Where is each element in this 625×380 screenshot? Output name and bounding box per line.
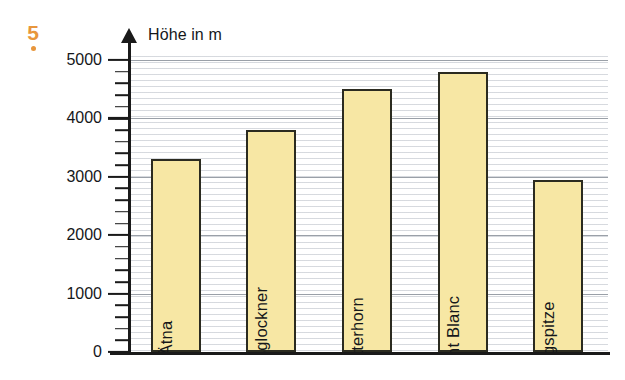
y-tick-label: 2000	[40, 226, 102, 244]
x-axis-line	[110, 352, 610, 355]
y-tick-minor	[115, 269, 129, 271]
exercise-marker-dot	[31, 46, 36, 51]
y-tick-minor	[115, 328, 129, 330]
bar: Ätna	[151, 159, 201, 352]
bar-label: Zugspitze	[539, 301, 558, 352]
y-tick-major	[108, 351, 129, 353]
bar-label: Großglockner	[252, 287, 271, 352]
y-tick-label: 1000	[40, 285, 102, 303]
y-axis-title: Höhe in m	[148, 26, 222, 44]
y-tick-minor	[115, 71, 129, 73]
y-axis-tick-labels: 010002000300040005000	[40, 0, 102, 380]
y-tick-minor	[115, 258, 129, 260]
y-tick-minor	[115, 153, 129, 155]
bar: Matterhorn	[342, 89, 392, 352]
plot-area: ÄtnaGroßglocknerMatterhornMont BlancZugs…	[130, 56, 608, 352]
y-tick-minor	[115, 223, 129, 225]
y-tick-label: 3000	[40, 168, 102, 186]
y-tick-minor	[115, 164, 129, 166]
grid-line-major	[130, 60, 608, 61]
y-tick-minor	[115, 188, 129, 190]
bar-chart: 5 ÄtnaGroßglocknerMatterhornMont BlancZu…	[0, 0, 625, 380]
bar: Großglockner	[246, 130, 296, 352]
y-tick-label: 4000	[40, 109, 102, 127]
y-tick-minor	[115, 246, 129, 248]
y-tick-minor	[115, 83, 129, 85]
y-tick-major	[108, 59, 129, 61]
y-tick-minor	[115, 281, 129, 283]
y-tick-minor	[115, 106, 129, 108]
y-tick-minor	[115, 340, 129, 342]
y-tick-major	[108, 117, 129, 119]
y-tick-minor	[115, 141, 129, 143]
bar: Zugspitze	[533, 180, 583, 352]
exercise-number: 5	[27, 21, 39, 44]
y-tick-minor	[115, 199, 129, 201]
y-tick-minor	[115, 304, 129, 306]
y-tick-minor	[115, 211, 129, 213]
y-tick-minor	[115, 316, 129, 318]
bar-label: Matterhorn	[348, 297, 367, 352]
y-tick-label: 5000	[40, 51, 102, 69]
bar: Mont Blanc	[438, 72, 488, 352]
y-axis-arrow-icon	[121, 28, 137, 43]
y-tick-major	[108, 176, 129, 178]
y-tick-major	[108, 293, 129, 295]
y-tick-minor	[115, 129, 129, 131]
y-tick-label: 0	[40, 343, 102, 361]
bar-label: Ätna	[157, 321, 176, 352]
y-tick-minor	[115, 94, 129, 96]
y-tick-major	[108, 234, 129, 236]
bar-label: Mont Blanc	[444, 296, 463, 352]
